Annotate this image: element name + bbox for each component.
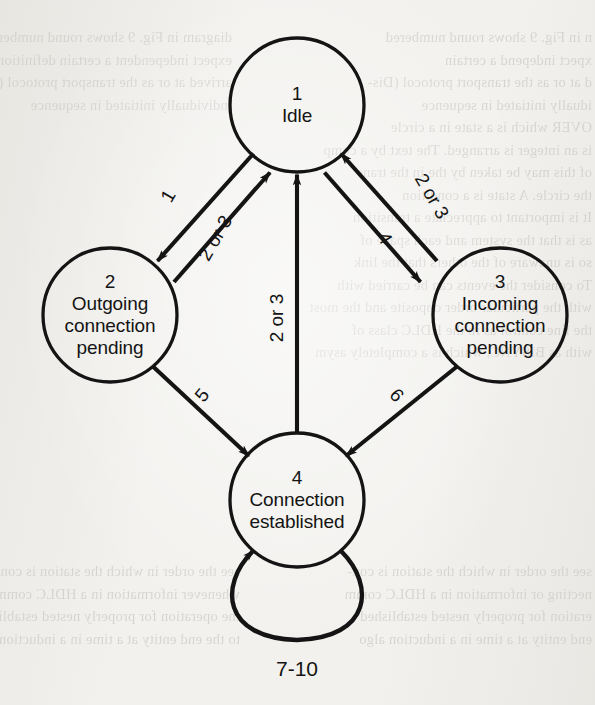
edge-3-to-4 bbox=[346, 367, 457, 457]
state-transition-diagram bbox=[0, 0, 595, 705]
state-node-1-idle[interactable] bbox=[230, 38, 364, 172]
node-group bbox=[43, 38, 567, 567]
state-node-3-incoming-pending[interactable] bbox=[433, 248, 567, 382]
edge-4-self-loop bbox=[232, 552, 362, 641]
edge-2-to-4 bbox=[153, 367, 249, 457]
state-node-4-connection-established[interactable] bbox=[230, 433, 364, 567]
scanned-page: diagram in Fig. 9 shows round numbered e… bbox=[0, 0, 595, 705]
state-node-2-outgoing-pending[interactable] bbox=[43, 248, 177, 382]
